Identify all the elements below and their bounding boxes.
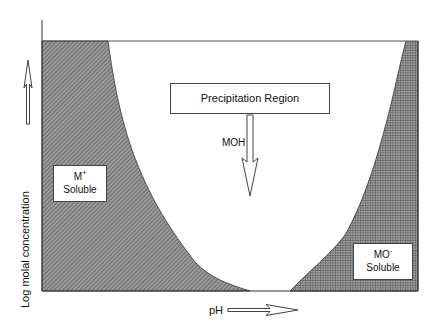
mo-minus-state: Soluble: [366, 262, 399, 275]
y-axis-label: Log molal concentration: [19, 191, 31, 308]
precipitation-region-box: Precipitation Region: [170, 83, 330, 114]
m-plus-state: Soluble: [63, 184, 96, 197]
x-axis-label: pH: [209, 304, 223, 316]
x-axis-right-arrow-icon: [228, 305, 298, 316]
y-axis-up-arrow-icon: [24, 60, 32, 124]
m-plus-soluble-box: M+ Soluble: [53, 165, 107, 202]
moh-label: MOH: [222, 137, 245, 148]
mo-minus-soluble-box: MO- Soluble: [353, 243, 413, 280]
precipitation-region-label: Precipitation Region: [201, 92, 299, 106]
mo-minus-species: MO-: [374, 249, 392, 262]
moh-down-arrow-icon: [242, 115, 258, 196]
m-plus-species: M+: [74, 171, 86, 184]
